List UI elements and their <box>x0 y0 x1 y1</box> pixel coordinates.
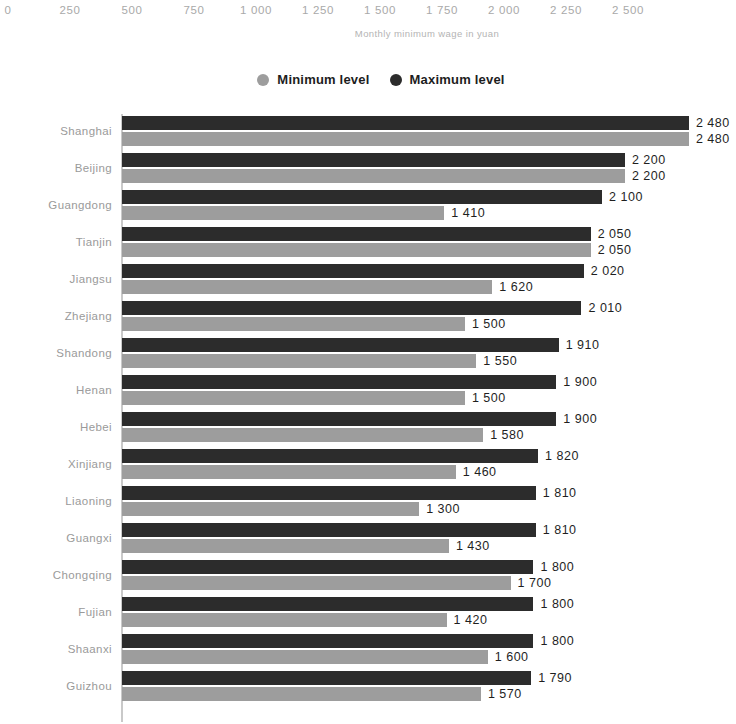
x-axis-tick-label: 1 750 <box>426 4 458 16</box>
bar-group-row: Jiangsu2 0201 620 <box>0 263 736 300</box>
bar-value-label: 2 200 <box>632 169 666 183</box>
bar-max[interactable] <box>122 264 584 278</box>
category-label: Jiangsu <box>0 273 112 285</box>
category-label: Chongqing <box>0 569 112 581</box>
bar-min[interactable] <box>122 280 492 294</box>
x-axis-tick-label: 500 <box>122 4 143 16</box>
bar-value-label: 2 480 <box>696 116 730 130</box>
category-label: Shandong <box>0 347 112 359</box>
bar-max[interactable] <box>122 338 559 352</box>
bar-group-row: Liaoning1 8101 300 <box>0 485 736 522</box>
x-axis-tick-label: 1 250 <box>302 4 334 16</box>
bar-group-row: Guangxi1 8101 430 <box>0 522 736 559</box>
x-axis-tick-label: 0 <box>5 4 12 16</box>
bar-min[interactable] <box>122 206 444 220</box>
bar-min[interactable] <box>122 169 625 183</box>
bar-group-row: Chongqing1 8001 700 <box>0 559 736 596</box>
legend-item[interactable]: Maximum level <box>390 72 505 87</box>
bar-value-label: 1 820 <box>545 449 579 463</box>
bar-min[interactable] <box>122 502 419 516</box>
bar-group-row: Xinjiang1 8201 460 <box>0 448 736 485</box>
bar-max[interactable] <box>122 153 625 167</box>
bar-max[interactable] <box>122 634 533 648</box>
legend-item-label: Minimum level <box>277 72 369 87</box>
bar-min[interactable] <box>122 465 456 479</box>
bar-value-label: 2 050 <box>598 227 632 241</box>
bar-value-label: 1 410 <box>451 206 485 220</box>
bar-min[interactable] <box>122 539 449 553</box>
category-label: Shanghai <box>0 125 112 137</box>
category-label: Xinjiang <box>0 458 112 470</box>
legend-item-label: Maximum level <box>410 72 505 87</box>
bar-max[interactable] <box>122 486 536 500</box>
circle-marker-icon <box>390 74 402 86</box>
bar-value-label: 2 010 <box>588 301 622 315</box>
bar-max[interactable] <box>122 449 538 463</box>
category-label: Hebei <box>0 421 112 433</box>
bar-value-label: 1 810 <box>543 523 577 537</box>
bar-min[interactable] <box>122 428 483 442</box>
bar-value-label: 1 500 <box>472 317 506 331</box>
bar-value-label: 1 910 <box>566 338 600 352</box>
bar-value-label: 2 480 <box>696 132 730 146</box>
bar-value-label: 1 550 <box>483 354 517 368</box>
bar-min[interactable] <box>122 132 689 146</box>
x-axis-tick-label: 2 250 <box>550 4 582 16</box>
bar-value-label: 1 430 <box>456 539 490 553</box>
bar-max[interactable] <box>122 227 591 241</box>
bar-group-row: Shanghai2 4802 480 <box>0 115 736 152</box>
bar-min[interactable] <box>122 650 488 664</box>
x-axis-tick-label: 750 <box>184 4 205 16</box>
bar-group-row: Beijing2 2002 200 <box>0 152 736 189</box>
x-axis-tick-strip: 02505007501 0001 2501 5001 7502 0002 250… <box>0 0 736 26</box>
bar-min[interactable] <box>122 687 481 701</box>
x-axis-tick-label: 2 500 <box>612 4 644 16</box>
bar-chart-plot-area: Shanghai2 4802 480Beijing2 2002 200Guang… <box>0 114 736 724</box>
bar-min[interactable] <box>122 243 591 257</box>
bar-value-label: 1 580 <box>490 428 524 442</box>
bar-max[interactable] <box>122 412 556 426</box>
bar-value-label: 1 800 <box>540 597 574 611</box>
x-axis-caption: Monthly minimum wage in yuan <box>0 28 736 39</box>
bar-value-label: 1 500 <box>472 391 506 405</box>
category-label: Guangdong <box>0 199 112 211</box>
category-label: Shaanxi <box>0 643 112 655</box>
bar-max[interactable] <box>122 116 689 130</box>
bar-max[interactable] <box>122 560 533 574</box>
bar-group-row: Guizhou1 7901 570 <box>0 670 736 707</box>
category-label: Tianjin <box>0 236 112 248</box>
bar-min[interactable] <box>122 613 447 627</box>
chart-legend: Minimum levelMaximum level <box>0 72 736 87</box>
bar-group-row: Henan1 9001 500 <box>0 374 736 411</box>
bar-group-row: Fujian1 8001 420 <box>0 596 736 633</box>
bar-value-label: 1 300 <box>426 502 460 516</box>
bar-max[interactable] <box>122 523 536 537</box>
bar-group-row: Zhejiang2 0101 500 <box>0 300 736 337</box>
category-label: Beijing <box>0 162 112 174</box>
bar-min[interactable] <box>122 317 465 331</box>
bar-value-label: 1 900 <box>563 375 597 389</box>
bar-min[interactable] <box>122 576 511 590</box>
x-axis-tick-label: 1 500 <box>364 4 396 16</box>
legend-item[interactable]: Minimum level <box>257 72 369 87</box>
bar-value-label: 1 790 <box>538 671 572 685</box>
bar-value-label: 1 460 <box>463 465 497 479</box>
bar-max[interactable] <box>122 671 531 685</box>
bar-min[interactable] <box>122 391 465 405</box>
bar-value-label: 1 620 <box>499 280 533 294</box>
bar-max[interactable] <box>122 301 581 315</box>
bar-value-label: 2 020 <box>591 264 625 278</box>
bar-min[interactable] <box>122 354 476 368</box>
x-axis-tick-label: 2 000 <box>488 4 520 16</box>
bar-group-row: Guangdong2 1001 410 <box>0 189 736 226</box>
bar-max[interactable] <box>122 375 556 389</box>
bar-max[interactable] <box>122 597 533 611</box>
x-axis-tick-label: 1 000 <box>240 4 272 16</box>
category-label: Guangxi <box>0 532 112 544</box>
category-label: Henan <box>0 384 112 396</box>
bar-max[interactable] <box>122 190 602 204</box>
category-label: Guizhou <box>0 680 112 692</box>
bar-value-label: 1 800 <box>540 634 574 648</box>
category-label: Fujian <box>0 606 112 618</box>
bar-value-label: 1 900 <box>563 412 597 426</box>
